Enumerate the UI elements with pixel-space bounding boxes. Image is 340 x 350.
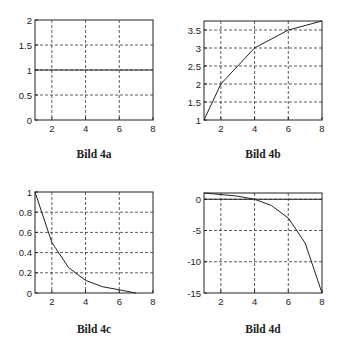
y-tick-label: 1.5 [19,40,32,51]
plot-4a: 246800.511.52 [19,15,156,135]
axes-box [35,192,153,293]
x-tick-label: 2 [218,123,223,134]
y-tick-label: 0.6 [19,227,32,238]
caption-bild-4c: Bild 4c [34,323,154,335]
caption-bild-4d: Bild 4d [203,323,323,335]
plot-4c: 246800.20.40.60.81 [19,187,156,308]
y-tick-label: 1 [27,65,32,76]
caption-bild-4b: Bild 4b [203,148,323,160]
x-tick-label: 8 [150,123,155,134]
x-tick-label: 6 [286,123,291,134]
caption-bild-4a: Bild 4a [34,148,154,160]
y-tick-label: 1 [27,187,32,198]
y-tick-label: 0 [27,115,32,126]
y-tick-label: 0 [27,288,32,299]
axes-box [204,21,322,120]
x-tick-label: 2 [218,296,223,307]
x-tick-label: 6 [286,296,291,307]
y-tick-label: 2 [196,79,201,90]
x-tick-label: 6 [117,123,122,134]
y-tick-label: 3 [196,43,201,54]
x-tick-label: 8 [319,296,324,307]
series-line [204,21,322,120]
y-tick-label: 3.5 [188,25,201,36]
x-tick-label: 2 [49,296,54,307]
y-tick-label: -5 [193,225,201,236]
series-line [204,193,322,293]
y-tick-label: 0.2 [19,267,32,278]
y-tick-label: 1.5 [188,97,201,108]
y-tick-label: 2 [27,15,32,26]
y-tick-label: -10 [187,256,201,267]
plot-4b: 246811.522.533.5 [188,21,325,134]
y-tick-label: 0.5 [19,90,32,101]
x-tick-label: 4 [252,296,257,307]
y-tick-label: 0.8 [19,207,32,218]
x-tick-label: 8 [150,296,155,307]
y-tick-label: 0 [196,194,201,205]
x-tick-label: 4 [252,123,257,134]
x-tick-label: 4 [83,123,88,134]
x-tick-label: 2 [49,123,54,134]
x-tick-label: 8 [319,123,324,134]
x-tick-label: 6 [117,296,122,307]
y-tick-label: 1 [196,115,201,126]
y-tick-label: -15 [187,288,201,299]
axes-box [204,193,322,293]
figure-canvas: 246800.511.52246811.522.533.5246800.20.4… [0,0,340,350]
y-tick-label: 0.4 [19,247,32,258]
y-tick-label: 2.5 [188,61,201,72]
plot-4d: 2468-15-10-50 [187,193,324,307]
x-tick-label: 4 [83,296,88,307]
